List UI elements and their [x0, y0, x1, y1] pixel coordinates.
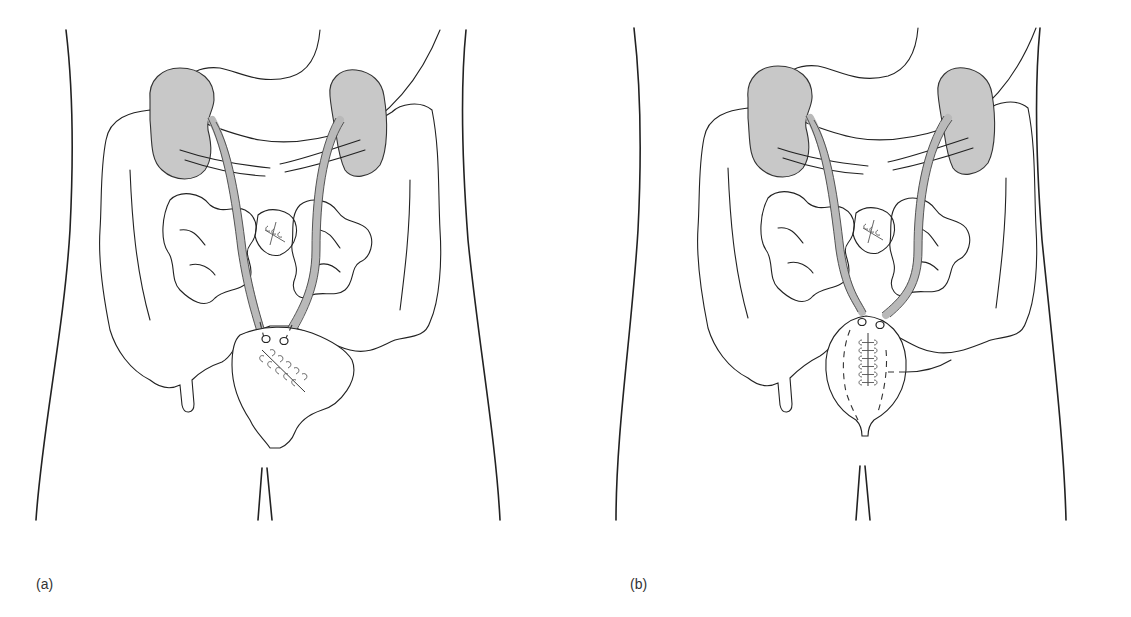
sigmoid-rectum: [232, 327, 354, 448]
rectosigmoid-pouch: [826, 316, 906, 436]
anatomy-illustration-b: [566, 0, 1131, 617]
body-outline-left: [616, 28, 640, 520]
right-kidney: [150, 68, 214, 179]
groin-marker: [258, 468, 272, 520]
panel-label-a: (a): [36, 576, 53, 592]
body-outline-right: [1036, 28, 1066, 520]
body-outline-right: [462, 30, 500, 520]
ureteral-orifice-right: [858, 319, 866, 326]
ureteral-orifice-left: [280, 338, 288, 345]
panel-a: (a): [0, 0, 565, 617]
right-kidney: [748, 66, 812, 177]
anatomy-illustration-a: [0, 0, 565, 617]
body-outline-left: [36, 30, 72, 520]
panel-label-b: (b): [630, 576, 647, 592]
panel-b: (b): [566, 0, 1131, 617]
ureteral-orifice-right: [262, 336, 270, 343]
pouch-to-colon: [906, 360, 951, 372]
groin-marker: [856, 466, 870, 520]
ureteral-orifice-left: [876, 322, 884, 329]
